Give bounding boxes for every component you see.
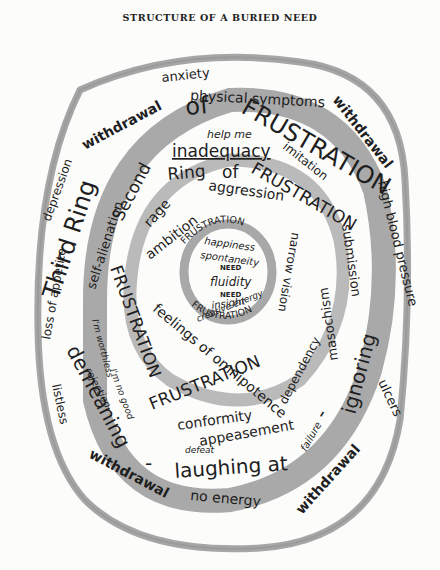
core-word-need-1: NEED: [220, 264, 241, 272]
core-word-fluidity: fluidity: [210, 275, 252, 289]
word-narrow-vision: narrow vision: [275, 231, 303, 313]
word-inadequacy: inadequacy: [172, 141, 271, 161]
third-ring-label-of: of: [184, 91, 210, 121]
band-dash-2: -: [309, 404, 333, 422]
outer-word-anxiety: anxiety: [161, 65, 211, 85]
word-rage: rage: [140, 196, 173, 230]
second-ring-label-ring: Ring: [167, 161, 207, 184]
outer-word-listless: listless: [49, 383, 71, 426]
band-dash-1: -: [145, 451, 152, 475]
buried-need-diagram: anxiety physical symptoms withdrawal dep…: [0, 0, 440, 570]
word-help-me: help me: [207, 128, 252, 141]
